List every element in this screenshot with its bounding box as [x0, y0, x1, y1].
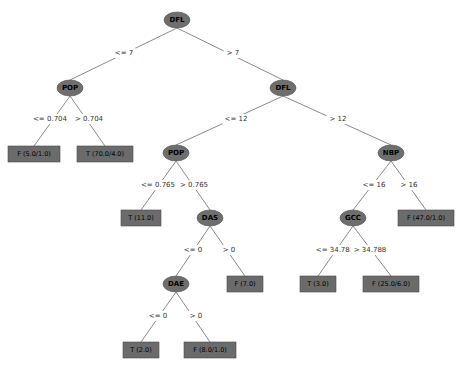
edge-condition-label: > 0	[190, 312, 203, 320]
split-attribute-label: DFL	[275, 84, 291, 92]
leaf-class-label: T (70.0/4.0)	[85, 150, 124, 158]
split-node: POP	[57, 80, 83, 96]
leaf-class-label: F (25.0/6.0)	[372, 280, 410, 288]
decision-tree-diagram: <= 7> 7<= 0.704> 0.704<= 12> 12<= 0.765>…	[0, 0, 465, 372]
split-node: DAS	[197, 210, 223, 226]
leaf-class-label: T (11.0)	[127, 214, 154, 222]
edge-labels-layer: <= 7> 7<= 0.704> 0.704<= 12> 12<= 0.765>…	[30, 48, 420, 321]
split-node: DAE	[163, 276, 189, 292]
edge-condition-label: > 0.765	[180, 181, 208, 189]
split-node: DFL	[270, 80, 296, 96]
split-attribute-label: NBP	[383, 149, 399, 157]
leaf-node: T (2.0)	[123, 342, 159, 358]
leaf-node: T (11.0)	[121, 210, 161, 226]
edge-condition-label: > 7	[227, 49, 240, 57]
leaf-node: T (70.0/4.0)	[77, 146, 133, 162]
split-attribute-label: POP	[62, 84, 78, 92]
split-node: GCC	[340, 210, 366, 226]
leaf-class-label: F (47.0/1.0)	[407, 214, 445, 222]
edge-condition-label: <= 0	[149, 312, 167, 320]
split-attribute-label: POP	[168, 149, 184, 157]
split-attribute-label: DAS	[202, 214, 218, 222]
edge-condition-label: > 0.704	[75, 115, 104, 123]
edge-condition-label: <= 34.788	[316, 246, 354, 254]
split-node: DFL	[164, 12, 190, 28]
leaf-class-label: T (2.0)	[129, 346, 151, 354]
edge-condition-label: > 16	[401, 181, 419, 189]
leaf-node: F (8.0/1.0)	[184, 342, 236, 358]
split-node: NBP	[378, 145, 404, 161]
edge-condition-label: <= 0.704	[33, 115, 68, 123]
leaf-node: F (5.0/1.0)	[8, 146, 60, 162]
leaf-class-label: F (5.0/1.0)	[17, 150, 51, 158]
split-attribute-label: DAE	[168, 280, 184, 288]
edge-condition-label: <= 0.765	[141, 181, 175, 189]
split-node: POP	[163, 145, 189, 161]
leaf-node: T (3.0)	[300, 276, 336, 292]
split-attribute-label: DFL	[169, 16, 185, 24]
edge-condition-label: > 12	[330, 115, 347, 123]
edge-condition-label: > 0	[223, 246, 236, 254]
leaf-class-label: T (3.0)	[306, 280, 328, 288]
edge-condition-label: <= 12	[225, 115, 248, 123]
edge-condition-label: <= 0	[184, 246, 202, 254]
leaf-class-label: F (8.0/1.0)	[193, 346, 227, 354]
leaf-node: F (47.0/1.0)	[398, 210, 454, 226]
split-attribute-label: GCC	[345, 214, 361, 222]
leaf-node: F (25.0/6.0)	[363, 276, 419, 292]
edge-condition-label: <= 7	[115, 49, 133, 57]
leaf-node: F (7.0)	[227, 276, 263, 292]
leaf-class-label: F (7.0)	[234, 280, 255, 288]
edge-condition-label: <= 16	[363, 181, 386, 189]
edge-condition-label: > 34.788	[354, 246, 387, 254]
